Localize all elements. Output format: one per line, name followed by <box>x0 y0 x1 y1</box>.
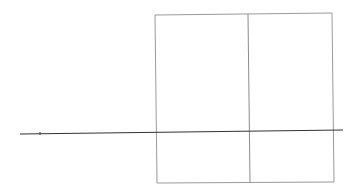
line-diagram <box>0 0 356 185</box>
frame-rectangle <box>155 13 334 183</box>
horizontal-axis-line <box>20 130 343 134</box>
vertical-divider <box>248 14 250 182</box>
